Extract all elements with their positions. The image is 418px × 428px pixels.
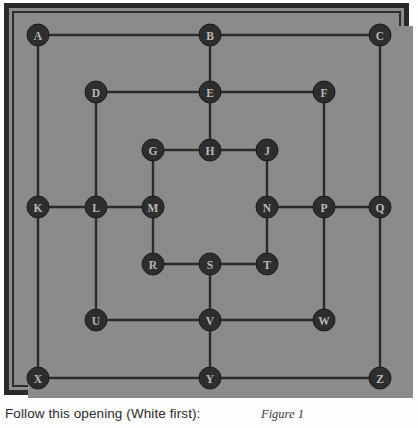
- board-node-e[interactable]: E: [199, 81, 221, 103]
- board-node-f[interactable]: F: [313, 81, 335, 103]
- node-disc-b[interactable]: [199, 24, 221, 46]
- board-node-w[interactable]: W: [313, 309, 335, 331]
- node-disc-f[interactable]: [313, 81, 335, 103]
- board-node-m[interactable]: M: [142, 196, 164, 218]
- node-disc-z[interactable]: [369, 367, 391, 389]
- node-disc-u[interactable]: [85, 309, 107, 331]
- node-disc-q[interactable]: [369, 196, 391, 218]
- board-node-t[interactable]: T: [256, 253, 278, 275]
- node-disc-l[interactable]: [85, 196, 107, 218]
- board-node-q[interactable]: Q: [369, 196, 391, 218]
- board-node-a[interactable]: A: [27, 24, 49, 46]
- board-node-r[interactable]: R: [142, 253, 164, 275]
- node-disc-v[interactable]: [199, 309, 221, 331]
- board-node-d[interactable]: D: [85, 81, 107, 103]
- figure-caption-row: Follow this opening (White first): Figur…: [0, 402, 418, 428]
- node-disc-m[interactable]: [142, 196, 164, 218]
- board-node-b[interactable]: B: [199, 24, 221, 46]
- node-disc-p[interactable]: [313, 196, 335, 218]
- board-node-h[interactable]: H: [199, 139, 221, 161]
- figure-1-container: ABCDEFGHJKLMNPQRSTUVWXYZ Follow this ope…: [0, 0, 418, 428]
- node-disc-c[interactable]: [369, 24, 391, 46]
- board-node-j[interactable]: J: [256, 139, 278, 161]
- figure-number-label: Figure 1: [261, 407, 304, 422]
- figure-caption-text: Follow this opening (White first):: [5, 406, 200, 421]
- node-disc-e[interactable]: [199, 81, 221, 103]
- node-disc-j[interactable]: [256, 139, 278, 161]
- node-disc-r[interactable]: [142, 253, 164, 275]
- node-disc-n[interactable]: [256, 196, 278, 218]
- node-disc-s[interactable]: [199, 253, 221, 275]
- node-disc-t[interactable]: [256, 253, 278, 275]
- board-graph: ABCDEFGHJKLMNPQRSTUVWXYZ: [0, 0, 418, 398]
- node-disc-h[interactable]: [199, 139, 221, 161]
- board-node-y[interactable]: Y: [199, 367, 221, 389]
- node-disc-d[interactable]: [85, 81, 107, 103]
- node-disc-w[interactable]: [313, 309, 335, 331]
- node-disc-y[interactable]: [199, 367, 221, 389]
- board-node-l[interactable]: L: [85, 196, 107, 218]
- board-node-c[interactable]: C: [369, 24, 391, 46]
- node-disc-x[interactable]: [27, 367, 49, 389]
- board-node-x[interactable]: X: [27, 367, 49, 389]
- board-node-n[interactable]: N: [256, 196, 278, 218]
- board-node-u[interactable]: U: [85, 309, 107, 331]
- node-disc-k[interactable]: [27, 196, 49, 218]
- board-node-s[interactable]: S: [199, 253, 221, 275]
- node-disc-g[interactable]: [142, 139, 164, 161]
- board-node-v[interactable]: V: [199, 309, 221, 331]
- board-node-p[interactable]: P: [313, 196, 335, 218]
- board-node-k[interactable]: K: [27, 196, 49, 218]
- board-node-g[interactable]: G: [142, 139, 164, 161]
- node-disc-a[interactable]: [27, 24, 49, 46]
- board-node-z[interactable]: Z: [369, 367, 391, 389]
